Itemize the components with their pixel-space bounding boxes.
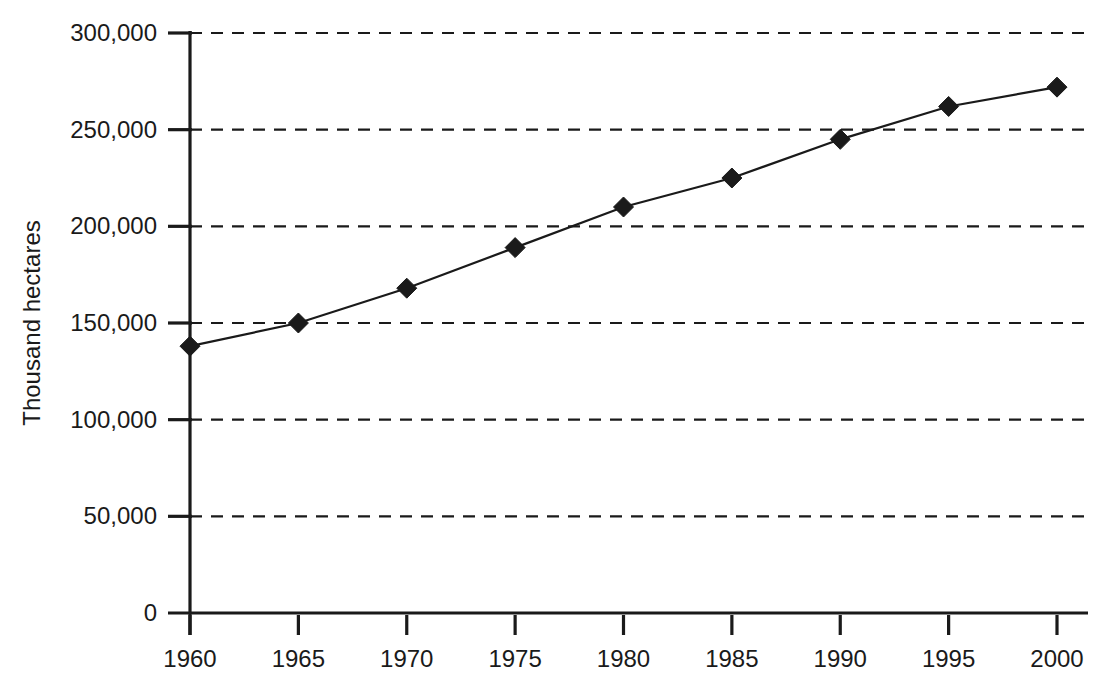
x-tick-label: 1980: [597, 645, 650, 672]
y-tick-label: 50,000: [84, 502, 157, 529]
x-axis: 196019651970197519801985199019952000: [163, 615, 1083, 672]
data-point-1980: [614, 197, 634, 217]
y-tick-label: 300,000: [70, 19, 157, 46]
chart-container: 050,000100,000150,000200,000250,000300,0…: [0, 0, 1107, 700]
y-tick-label: 0: [144, 599, 157, 626]
axes: [168, 31, 1088, 635]
line-chart: 050,000100,000150,000200,000250,000300,0…: [0, 0, 1107, 700]
data-point-1995: [939, 96, 959, 116]
x-tick-label: 1985: [705, 645, 758, 672]
data-point-1970: [397, 278, 417, 298]
y-tick-label: 200,000: [70, 212, 157, 239]
data-point-1965: [288, 313, 308, 333]
data-point-1990: [830, 129, 850, 149]
data-point-1960: [180, 336, 200, 356]
y-tick-label: 250,000: [70, 116, 157, 143]
data-point-2000: [1047, 77, 1067, 97]
y-tick-label: 100,000: [70, 406, 157, 433]
y-axis: 050,000100,000150,000200,000250,000300,0…: [70, 19, 192, 626]
x-tick-label: 1995: [922, 645, 975, 672]
data-markers: [180, 77, 1067, 356]
data-point-1985: [722, 168, 742, 188]
x-tick-label: 1970: [380, 645, 433, 672]
y-tick-label: 150,000: [70, 309, 157, 336]
x-tick-label: 1965: [272, 645, 325, 672]
x-tick-label: 1960: [163, 645, 216, 672]
x-tick-label: 1990: [814, 645, 867, 672]
y-axis-title: Thousand hectares: [18, 220, 45, 425]
data-point-1975: [505, 238, 525, 258]
x-tick-label: 2000: [1030, 645, 1083, 672]
x-tick-label: 1975: [488, 645, 541, 672]
